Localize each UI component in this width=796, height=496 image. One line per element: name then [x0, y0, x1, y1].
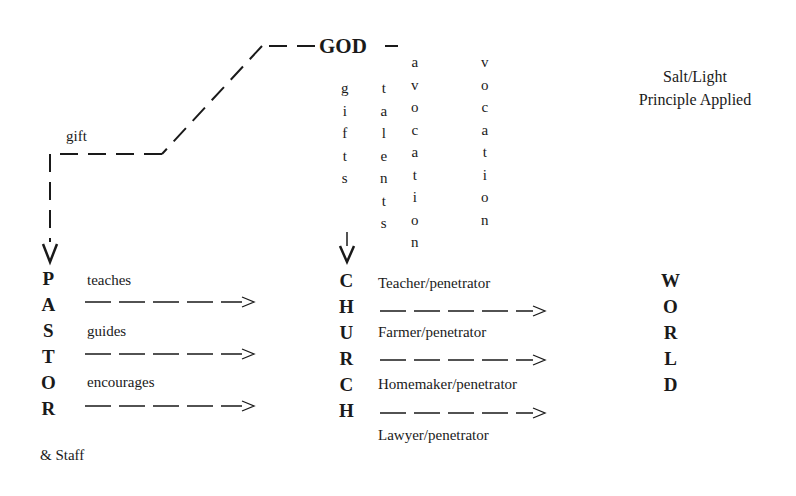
legend-line-1: Salt/Light — [640, 68, 750, 86]
vertical-word-vocation: v o c a t i o n — [481, 51, 489, 231]
world-column: W O R L D — [661, 268, 680, 398]
church-role-farmer: Farmer/penetrator — [378, 324, 486, 341]
vertical-word-avocation: a v o c a t i o n — [411, 51, 419, 254]
gift-label: gift — [66, 128, 87, 145]
vertical-word-talents: t a l e n t s — [380, 77, 388, 235]
pastor-action-teaches: teaches — [87, 272, 131, 289]
church-role-homemaker: Homemaker/penetrator — [378, 376, 517, 393]
church-role-lawyer: Lawyer/penetrator — [378, 427, 489, 444]
church-column: C H U R C H — [339, 268, 354, 424]
god-label: GOD — [319, 34, 367, 59]
legend-line-2: Principle Applied — [605, 91, 785, 109]
arrowhead-pastor — [43, 244, 57, 262]
pastor-staff-label: & Staff — [40, 447, 84, 464]
vertical-word-gifts: g i f t s — [341, 77, 349, 190]
church-role-teacher: Teacher/penetrator — [378, 275, 490, 292]
pastor-action-encourages: encourages — [87, 374, 154, 391]
pastor-column: P A S T O R — [41, 266, 56, 422]
arrowhead-church — [340, 246, 354, 262]
pastor-action-guides: guides — [87, 323, 126, 340]
gift-diagonal-dash — [162, 46, 262, 154]
